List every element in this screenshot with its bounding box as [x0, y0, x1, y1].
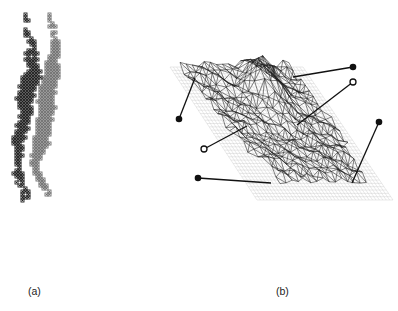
callout-bottom-left-filled — [195, 175, 271, 183]
figure-canvas — [0, 0, 398, 311]
open-circle-marker-icon — [350, 79, 356, 85]
caption-panel-b: (b) — [276, 285, 289, 297]
caption-panel-a: (a) — [28, 285, 41, 297]
grey-pixel-column — [30, 13, 60, 196]
filled-dot-marker-icon — [350, 64, 357, 71]
open-circle-marker-icon — [201, 146, 207, 152]
filled-dot-marker-icon — [376, 119, 383, 126]
panel-a-pixel-columns — [12, 13, 60, 202]
filled-dot-marker-icon — [195, 175, 202, 182]
filled-dot-marker-icon — [176, 116, 183, 123]
